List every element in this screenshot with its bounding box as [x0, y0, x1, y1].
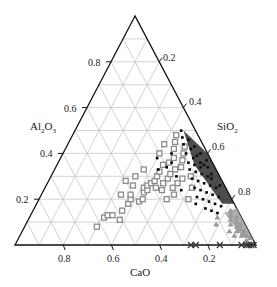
al2o3-main: Al [30, 120, 41, 132]
ternary-diagram [0, 0, 277, 287]
axis-title-al2o3: Al2O3 [30, 120, 56, 135]
axis-title-cao: CaO [130, 266, 150, 278]
bottom-tick-0.2: 0.2 [203, 253, 216, 264]
right-tick-0.4: 0.4 [189, 96, 202, 107]
axis-title-sio2: SiO2 [217, 120, 238, 135]
al2o3-sub2: 3 [52, 127, 56, 135]
right-tick-0.6: 0.6 [212, 141, 225, 152]
sio2-main: SiO [217, 120, 234, 132]
right-tick-0.2: 0.2 [163, 52, 176, 63]
left-tick-0.2: 0.2 [16, 194, 29, 205]
bottom-tick-0.6: 0.6 [107, 253, 120, 264]
bottom-tick-0.4: 0.4 [155, 253, 168, 264]
left-tick-0.6: 0.6 [64, 103, 77, 114]
left-tick-0.8: 0.8 [88, 57, 101, 68]
left-tick-0.4: 0.4 [40, 148, 53, 159]
sio2-sub: 2 [234, 127, 238, 135]
bottom-tick-0.8: 0.8 [58, 253, 71, 264]
right-tick-0.8: 0.8 [238, 186, 251, 197]
